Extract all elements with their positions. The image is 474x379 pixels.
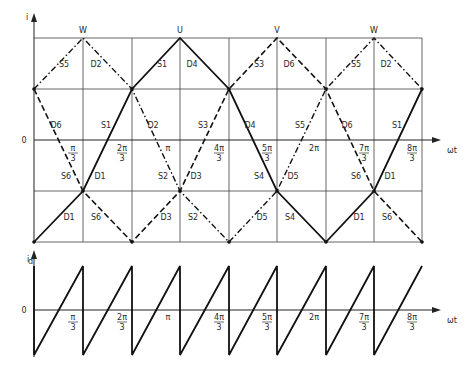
x-axis-label: ωt	[447, 146, 457, 155]
tick-denominator: 3	[119, 154, 124, 163]
tick-numerator: 2π	[117, 313, 127, 322]
lower-plot-labels: id0ωtπ32π3π4π35π32π7π38π3	[21, 255, 456, 332]
device-label: D1	[353, 213, 364, 222]
crossing-node	[420, 87, 424, 91]
tick-numerator: π	[71, 313, 76, 322]
tick-numerator: 2π	[117, 144, 127, 153]
device-label: D2	[147, 121, 158, 130]
device-label: S6	[351, 172, 361, 181]
tick-numerator: 5π	[262, 313, 272, 322]
device-label: D1	[94, 172, 105, 181]
crossing-node	[324, 240, 328, 244]
device-label: S1	[157, 60, 167, 69]
device-label: S5	[351, 60, 361, 69]
crossing-node	[130, 240, 134, 244]
device-label: S6	[382, 213, 392, 222]
device-label: S3	[198, 121, 208, 130]
device-label: D1	[63, 213, 74, 222]
device-label: D4	[186, 60, 197, 69]
phase-label: W	[370, 26, 378, 35]
tick-numerator: 4π	[214, 144, 224, 153]
device-label: S4	[254, 172, 264, 181]
device-label: D6	[50, 121, 61, 130]
x-axis-arrow-icon	[432, 137, 441, 143]
tick-denominator: 3	[264, 323, 269, 332]
lower-origin-label: 0	[21, 306, 26, 315]
crossing-node	[81, 189, 85, 193]
device-label: S4	[285, 213, 295, 222]
phase-label: V	[274, 26, 280, 35]
crossing-node	[178, 189, 182, 193]
device-label: S2	[158, 172, 168, 181]
tick-denominator: 3	[409, 323, 414, 332]
tick-denominator: 3	[216, 323, 221, 332]
device-label: S3	[254, 60, 264, 69]
crossing-node	[275, 189, 279, 193]
tick-denominator: 3	[361, 323, 366, 332]
tick-denominator: 3	[70, 323, 75, 332]
phase-label: U	[177, 26, 183, 35]
device-label: D2	[90, 60, 101, 69]
phase-label: W	[79, 26, 87, 35]
crossing-node	[130, 87, 134, 91]
lower-x-axis-arrow-icon	[432, 307, 441, 313]
y-axis-label: i	[26, 13, 28, 22]
crossing-node	[32, 240, 36, 244]
tick-denominator: 3	[70, 154, 75, 163]
tick-label: 2π	[309, 144, 319, 153]
crossing-node	[227, 240, 231, 244]
tick-numerator: 8π	[407, 313, 417, 322]
device-label: S6	[61, 172, 71, 181]
tick-label: π	[166, 313, 171, 322]
tick-numerator: 8π	[407, 144, 417, 153]
tick-label: 2π	[309, 313, 319, 322]
device-label: S5	[59, 60, 69, 69]
tick-denominator: 3	[361, 154, 366, 163]
lower-y-axis-subscript: d	[28, 257, 33, 266]
device-label: D3	[190, 172, 201, 181]
tick-numerator: 7π	[359, 313, 369, 322]
device-label: S1	[101, 121, 111, 130]
device-label: D6	[341, 121, 352, 130]
crossing-node	[420, 240, 424, 244]
y-axis-arrow-icon	[31, 13, 37, 22]
crossing-node	[227, 87, 231, 91]
device-label: S2	[188, 213, 198, 222]
device-label: S5	[295, 121, 305, 130]
tick-numerator: 5π	[262, 144, 272, 153]
crossing-node	[372, 189, 376, 193]
origin-label: 0	[21, 136, 26, 145]
crossing-node	[324, 87, 328, 91]
device-label: S1	[392, 121, 402, 130]
inverter-current-diagram: i0ωtWUVWS5D2S1D4S3D6S5D2D6S1D2S3D4S5D6S1…	[0, 0, 474, 379]
device-label: D2	[380, 60, 391, 69]
device-label: D6	[283, 60, 294, 69]
lower-x-axis-label: ωt	[447, 316, 457, 325]
device-label: D5	[256, 213, 267, 222]
tick-denominator: 3	[409, 154, 414, 163]
device-label: S6	[91, 213, 101, 222]
device-label: D5	[287, 172, 298, 181]
tick-denominator: 3	[264, 154, 269, 163]
tick-numerator: 4π	[214, 313, 224, 322]
tick-numerator: 7π	[359, 144, 369, 153]
tick-label: π	[166, 144, 171, 153]
tick-numerator: π	[71, 144, 76, 153]
tick-denominator: 3	[216, 154, 221, 163]
device-label: D1	[384, 172, 395, 181]
device-label: D3	[160, 213, 171, 222]
tick-denominator: 3	[119, 323, 124, 332]
crossing-node	[32, 87, 36, 91]
device-label: D4	[244, 121, 255, 130]
